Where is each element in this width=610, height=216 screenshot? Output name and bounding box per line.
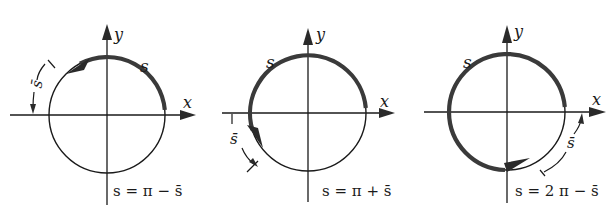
arc-label: s [266, 52, 275, 72]
equation: s = 2 π − s̄ [515, 182, 599, 200]
y-axis-arrow-icon [102, 24, 112, 40]
reference-angle-diagram: s x y s̄ s = π − s̄ s x y s̄ s = π + s̄ [0, 0, 610, 216]
arc-label: s [463, 52, 472, 72]
y-axis-label: y [315, 25, 326, 44]
x-axis-label: x [183, 93, 192, 112]
x-axis-label: x [592, 90, 601, 109]
offset-curve-top [37, 64, 45, 80]
equation: s = π − s̄ [113, 182, 182, 200]
x-axis-label: x [380, 92, 389, 111]
arc-arrowhead-icon [247, 125, 263, 148]
arc-arrowhead-icon [66, 58, 90, 74]
panel-3: s x y s̄ s = 2 π − s̄ [424, 22, 606, 203]
y-axis-label: y [513, 22, 524, 41]
offset-tick [48, 60, 55, 68]
offset-arrow-icon [30, 104, 36, 114]
offset-curve-bottom [544, 152, 566, 172]
y-axis-arrow-icon [502, 25, 512, 43]
offset-arrow-icon [578, 113, 584, 124]
panel-2: s x y s̄ s = π + s̄ [222, 25, 395, 202]
offset-label: s̄ [230, 130, 238, 148]
arc-s [80, 57, 165, 110]
arc-label: s [140, 56, 149, 76]
offset-label: s̄ [567, 134, 575, 152]
equation: s = π + s̄ [322, 182, 391, 200]
y-axis-arrow-icon [303, 28, 313, 45]
arc-arrowhead-icon [504, 158, 530, 172]
y-axis-label: y [113, 25, 124, 44]
offset-end-tick [540, 170, 545, 176]
panel-1: s x y s̄ s = π − s̄ [10, 24, 196, 205]
